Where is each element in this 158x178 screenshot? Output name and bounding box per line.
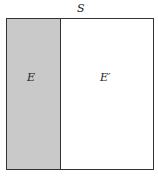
complement-e-prime-label: E′ (100, 72, 111, 83)
sample-space-rectangle (6, 18, 154, 170)
sample-space-label: S (77, 3, 85, 14)
event-e-label: E (27, 72, 35, 83)
event-e-region (7, 19, 61, 169)
